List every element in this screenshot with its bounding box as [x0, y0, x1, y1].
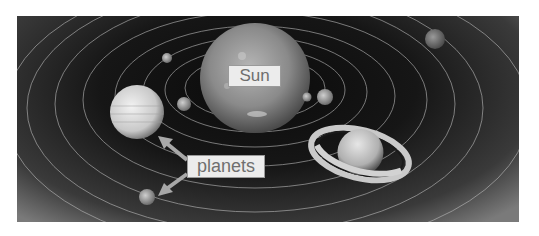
outer-planet-top-right	[425, 29, 445, 49]
jupiter-like-planet	[110, 85, 164, 139]
small-planet-1	[162, 53, 172, 63]
small-planet-3	[303, 93, 312, 102]
saturn-like-planet	[306, 118, 415, 190]
small-planet-2	[177, 97, 191, 111]
planet-bottom-left	[139, 189, 155, 205]
solar-system-image: Sun planets	[17, 16, 519, 222]
arrow-to-jupiter	[158, 136, 187, 160]
planets-label: planets	[187, 155, 265, 178]
solar-system-scene	[17, 16, 519, 222]
sun-label: Sun	[228, 65, 281, 87]
small-planet-4	[317, 89, 333, 105]
